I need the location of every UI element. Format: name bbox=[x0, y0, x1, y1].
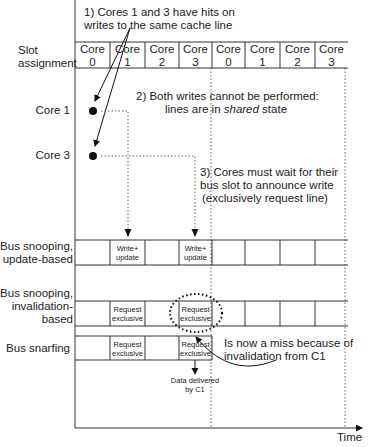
snarf-cell-core3: Requestexclusive bbox=[179, 340, 212, 358]
label-core1: Core 1 bbox=[0, 104, 70, 117]
label-time-axis: Time bbox=[337, 431, 362, 444]
note-data-delivered: Data delivered by C1 bbox=[168, 376, 222, 394]
note-2-shared-state: 2) Both writes cannot be performed: line… bbox=[136, 90, 316, 116]
inval-cell-core1: Requestexclusive bbox=[110, 305, 145, 323]
core1-wait-arrowhead bbox=[125, 229, 132, 237]
label-inval-line2: invalidation- bbox=[0, 300, 73, 313]
update-cell-core3: Write+update bbox=[179, 244, 212, 262]
label-inval-line3: based bbox=[0, 313, 73, 326]
label-update-line2: update-based bbox=[0, 253, 73, 266]
label-slot-line1: Slot bbox=[18, 44, 74, 57]
slot-cell-0: Core0 bbox=[75, 43, 110, 68]
label-inval-line1: Bus snooping, bbox=[0, 287, 73, 300]
slot-cell-7: Core3 bbox=[315, 43, 348, 68]
label-bus-snarfing: Bus snarfing bbox=[0, 342, 70, 355]
data-delivered-arrowhead bbox=[192, 368, 199, 375]
slot-cell-5: Core1 bbox=[245, 43, 280, 68]
core1-write-dot bbox=[89, 107, 97, 115]
label-core3: Core 3 bbox=[0, 149, 70, 162]
label-slot-assignment: Slot assignment bbox=[18, 44, 74, 70]
note-3-wait-for-slot: 3) Cores must wait for their bus slot to… bbox=[200, 166, 330, 205]
slot-cell-6: Core2 bbox=[280, 43, 315, 68]
label-update-based: Bus snooping, update-based bbox=[0, 240, 73, 266]
snarf-cell-core1: Requestexclusive bbox=[110, 340, 145, 358]
label-slot-line2: assignment bbox=[18, 57, 74, 70]
note-miss-invalidation: Is now a miss because of invalidation fr… bbox=[224, 337, 344, 363]
label-invalidation-based: Bus snooping, invalidation- based bbox=[0, 287, 73, 326]
core3-wait-arrowhead bbox=[192, 229, 199, 237]
core3-write-dot bbox=[89, 152, 97, 160]
core3-wait-path bbox=[101, 156, 195, 236]
label-update-line1: Bus snooping, bbox=[0, 240, 73, 253]
core1-wait-path bbox=[101, 111, 128, 236]
update-cell-core1: Write+update bbox=[110, 244, 145, 262]
slot-cell-2: Core2 bbox=[145, 43, 179, 68]
inval-cell-core3: Requestexclusive bbox=[179, 305, 212, 323]
slot-cell-3: Core3 bbox=[179, 43, 212, 68]
note-1-cache-hits: 1) Cores 1 and 3 have hits on writes to … bbox=[84, 6, 224, 32]
slot-cell-1: Core1 bbox=[110, 43, 145, 68]
slot-cell-4: Core0 bbox=[212, 43, 245, 68]
